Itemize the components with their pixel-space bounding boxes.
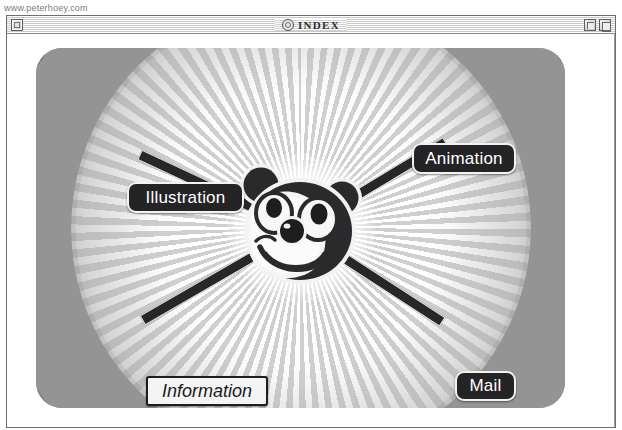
window-control-buttons <box>584 19 611 31</box>
close-icon <box>14 22 20 28</box>
index-artwork-panel: Animation Illustration Information Mail <box>36 48 565 408</box>
title-plate: INDEX <box>275 19 347 31</box>
zoom-box-button[interactable] <box>584 19 596 31</box>
index-window: INDEX <box>6 15 616 428</box>
window-titlebar[interactable]: INDEX <box>7 16 615 34</box>
window-title-area: INDEX <box>7 16 615 33</box>
window-title: INDEX <box>298 19 340 31</box>
bear-face-mascot <box>226 153 376 303</box>
close-box-button[interactable] <box>11 19 23 31</box>
nav-label-illustration-text: Illustration <box>146 188 226 208</box>
collapse-box-button[interactable] <box>599 19 611 31</box>
nav-label-animation[interactable]: Animation <box>412 143 516 174</box>
window-content: Animation Illustration Information Mail <box>7 34 615 427</box>
nav-label-information[interactable]: Information <box>146 376 268 406</box>
nav-label-information-text: Information <box>162 381 252 402</box>
nav-label-animation-text: Animation <box>425 149 502 169</box>
nav-label-mail[interactable]: Mail <box>455 371 516 401</box>
site-url-text: www.peterhoey.com <box>4 3 88 13</box>
nav-label-illustration[interactable]: Illustration <box>127 182 244 213</box>
nav-label-mail-text: Mail <box>470 376 502 396</box>
at-sign-circle-icon <box>282 19 294 31</box>
